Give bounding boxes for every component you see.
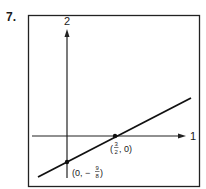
frame bbox=[29, 16, 200, 187]
svg-text:8: 8 bbox=[96, 173, 100, 179]
svg-text:3: 3 bbox=[115, 141, 119, 147]
svg-text:, 0): , 0) bbox=[119, 144, 132, 154]
x-intercept-label: ( 3 2 , 0) bbox=[110, 141, 132, 155]
x-intercept-point bbox=[113, 134, 117, 138]
horizontal-axis-arrow-icon bbox=[178, 134, 186, 139]
y-intercept-label: (0, − 9 8 ) bbox=[72, 165, 103, 179]
svg-text:(: ( bbox=[110, 144, 113, 154]
graph: 1 2 ( 3 2 , 0) (0, − 9 8 ) bbox=[0, 0, 206, 189]
horizontal-axis-label: 1 bbox=[190, 130, 196, 142]
vertical-axis-label: 2 bbox=[64, 15, 70, 27]
y-intercept-point bbox=[65, 160, 69, 164]
svg-text:9: 9 bbox=[96, 165, 100, 171]
svg-text:2: 2 bbox=[115, 149, 119, 155]
vertical-axis-arrow-icon bbox=[65, 29, 70, 37]
svg-text:): ) bbox=[100, 168, 103, 178]
svg-text:(0, −: (0, − bbox=[72, 168, 90, 178]
